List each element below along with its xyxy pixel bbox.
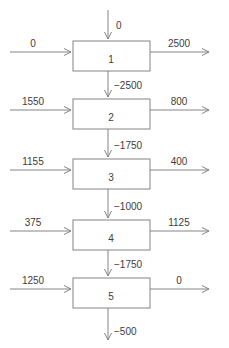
flow-diagram-svg: 0 0 1 2500 −2500 1550 2 800 −1750 1155 3… [0,0,229,348]
stage-3-left-label: 1155 [22,156,44,167]
flow-diagram: 0 0 1 2500 −2500 1550 2 800 −1750 1155 3… [0,0,229,348]
stage-4-down-label: −1750 [114,259,143,270]
stage-3-right-label: 400 [171,156,188,167]
stage-3: 1155 3 400 −1000 [10,156,209,218]
stage-4-left-label: 375 [25,217,42,228]
stage-1-down-label: −2500 [114,80,143,91]
stage-2: 1550 2 800 −1750 [10,96,209,157]
stage-5: 1250 5 0 −500 [10,275,209,340]
stage-3-box-label: 3 [108,172,114,183]
stage-5-right-label: 0 [176,275,182,286]
top-input-label: 0 [116,20,122,31]
stage-2-right-label: 800 [171,96,188,107]
stage-4-right-label: 1125 [168,217,190,228]
stage-1-right-label: 2500 [168,38,191,49]
stage-5-left-label: 1250 [22,275,45,286]
stage-2-left-label: 1550 [22,96,45,107]
stage-4-box-label: 4 [108,233,114,244]
stage-2-down-label: −1750 [114,140,143,151]
stage-2-box-label: 2 [108,112,114,123]
stage-4: 375 4 1125 −1750 [10,217,209,276]
stage-1-box-label: 1 [108,54,114,65]
stage-1-left-label: 0 [30,38,36,49]
stage-3-down-label: −1000 [114,201,143,212]
stage-5-box-label: 5 [108,291,114,302]
stage-1: 0 1 2500 −2500 [10,38,209,97]
stage-5-down-label: −500 [114,326,137,337]
